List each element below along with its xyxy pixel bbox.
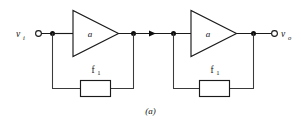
output-terminal-circle[interactable] [272, 31, 278, 37]
stage-1-feedback-label-base: f [91, 65, 95, 75]
stage-1-feedback-block[interactable] [81, 81, 111, 97]
stage-1-amplifier-label: a [88, 29, 93, 39]
stage-2-feedback-label-base: f [210, 65, 214, 75]
stage-2-amplifier-triangle[interactable] [191, 11, 237, 57]
stage-1-feedback-right-path [111, 34, 134, 89]
input-terminal-circle[interactable] [36, 31, 42, 37]
stage-2-feedback-label-subscript: 1 [216, 69, 219, 76]
signal-flow-arrow-icon [149, 30, 156, 36]
stage-1-group: v i a f 1 [16, 11, 152, 97]
stage-1-amplifier-triangle[interactable] [73, 11, 119, 57]
figure-container: v i a f 1 [0, 0, 301, 123]
input-label-subscript: i [23, 34, 25, 41]
circuit-diagram-svg: v i a f 1 [0, 0, 301, 123]
output-label-subscript: o [288, 34, 292, 41]
input-label-base: v [16, 29, 21, 39]
stage-2-group: a f 1 v o [171, 11, 292, 97]
stage-1-feedback-label-subscript: 1 [97, 69, 100, 76]
figure-caption: (a) [145, 106, 156, 116]
stage-2-feedback-right-path [230, 34, 254, 89]
stage-2-feedback-block[interactable] [200, 81, 230, 97]
output-label-base: v [281, 29, 286, 39]
interstage-link-group [134, 30, 192, 36]
stage-2-amplifier-label: a [206, 29, 211, 39]
